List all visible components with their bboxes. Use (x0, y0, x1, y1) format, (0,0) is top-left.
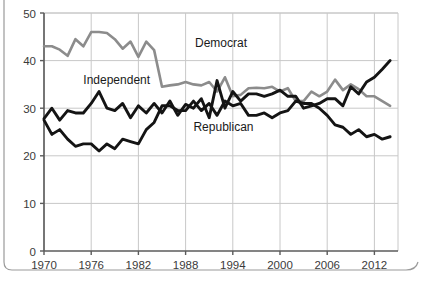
x-tick-label: 1994 (220, 259, 246, 271)
y-tick-label: 10 (23, 198, 36, 210)
annotation-republican: Republican (193, 120, 253, 134)
y-axis-tick-labels: 01020304050 (23, 8, 36, 258)
x-tick-label: 2006 (314, 259, 340, 271)
annotation-independent: Independent (83, 73, 150, 87)
x-tick-label: 1970 (31, 259, 57, 271)
x-tick-label: 1988 (173, 259, 199, 271)
y-tick-label: 0 (30, 246, 36, 258)
x-tick-label: 2000 (267, 259, 293, 271)
y-tick-label: 40 (23, 55, 36, 67)
x-axis-tick-labels: 19701976198219881994200020062012 (31, 259, 387, 271)
chart-figure: 01020304050 1970197619821988199420002006… (0, 0, 427, 287)
party-identification-line-chart: 01020304050 1970197619821988199420002006… (0, 0, 427, 287)
annotation-democrat: Democrat (195, 36, 248, 50)
x-tick-label: 1976 (78, 259, 104, 271)
x-tick-label: 2012 (362, 259, 388, 271)
x-tick-label: 1982 (126, 259, 152, 271)
y-tick-label: 50 (23, 8, 36, 20)
y-tick-label: 30 (23, 103, 36, 115)
y-tick-label: 20 (23, 150, 36, 162)
